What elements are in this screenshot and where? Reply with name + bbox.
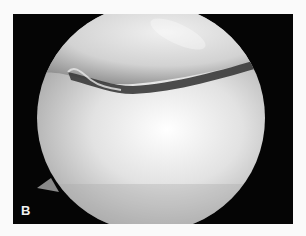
arthroscopy-image-frame: B [13, 14, 293, 224]
arthroscopic-view [13, 14, 293, 224]
panel-label: B [21, 203, 30, 218]
